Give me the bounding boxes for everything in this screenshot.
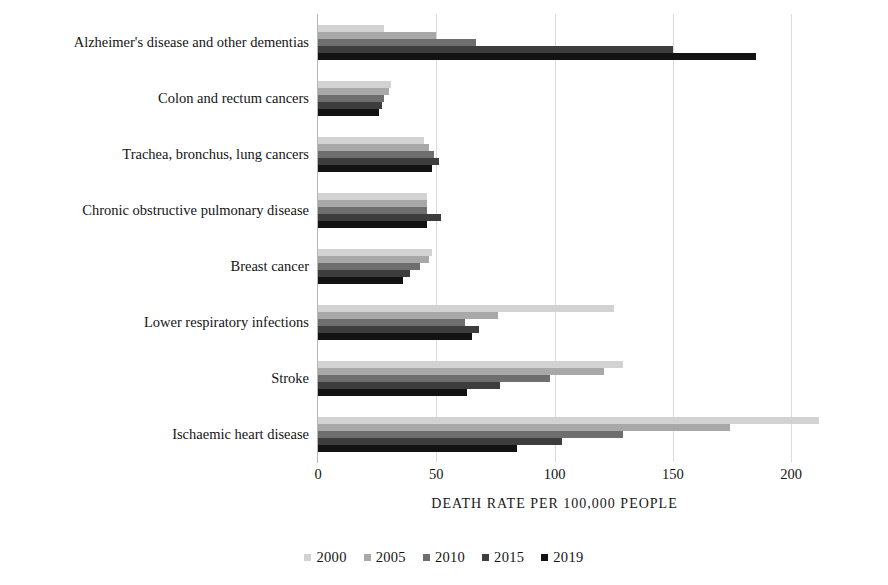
- bar: [318, 53, 756, 60]
- category-label: Trachea, bronchus, lung cancers: [12, 146, 318, 162]
- legend-swatch-icon: [423, 554, 430, 561]
- legend-item[interactable]: 2015: [482, 549, 524, 566]
- bar: [318, 438, 562, 445]
- bar: [318, 389, 467, 396]
- x-axis-title: DEATH RATE PER 100,000 PEOPLE: [318, 496, 791, 512]
- category-label: Stroke: [12, 370, 318, 386]
- bar: [318, 137, 424, 144]
- legend-swatch-icon: [304, 554, 311, 561]
- category-axis-labels: Alzheimer's disease and other dementiasC…: [0, 14, 318, 462]
- category-label: Breast cancer: [12, 258, 318, 274]
- bar: [318, 277, 403, 284]
- value-axis-tick-labels: 050100150200: [0, 466, 888, 488]
- bar: [318, 144, 429, 151]
- bar-group: [318, 193, 791, 228]
- bar: [318, 158, 439, 165]
- bar-group: [318, 81, 791, 116]
- chart-legend: 20002005201020152019: [0, 549, 888, 566]
- bar: [318, 102, 382, 109]
- bar: [318, 32, 436, 39]
- x-tick-label: 50: [429, 466, 444, 483]
- legend-label: 2000: [316, 549, 346, 566]
- legend-swatch-icon: [482, 554, 489, 561]
- x-tick-label: 0: [314, 466, 321, 483]
- bar: [318, 312, 498, 319]
- category-label: Alzheimer's disease and other dementias: [12, 34, 318, 50]
- bar: [318, 375, 550, 382]
- bar-group: [318, 305, 791, 340]
- x-tick-label: 200: [780, 466, 802, 483]
- legend-item[interactable]: 2019: [541, 549, 583, 566]
- legend-label: 2019: [553, 549, 583, 566]
- bar: [318, 214, 441, 221]
- bar: [318, 382, 500, 389]
- legend-item[interactable]: 2010: [423, 549, 465, 566]
- bar: [318, 95, 384, 102]
- bar: [318, 319, 465, 326]
- bar: [318, 263, 420, 270]
- bar: [318, 333, 472, 340]
- bar: [318, 207, 427, 214]
- x-tick-label: 100: [544, 466, 566, 483]
- bar: [318, 25, 384, 32]
- plot-area: [318, 14, 791, 462]
- bar: [318, 46, 673, 53]
- legend-label: 2015: [494, 549, 524, 566]
- category-label: Lower respiratory infections: [12, 314, 318, 330]
- category-label: Chronic obstructive pulmonary disease: [12, 202, 318, 218]
- bar: [318, 193, 427, 200]
- bar-group: [318, 137, 791, 172]
- bar: [318, 256, 429, 263]
- bar: [318, 305, 614, 312]
- bar: [318, 424, 730, 431]
- bar: [318, 417, 819, 424]
- bar: [318, 81, 391, 88]
- bar: [318, 88, 389, 95]
- category-label: Ischaemic heart disease: [12, 426, 318, 442]
- bar-group: [318, 25, 791, 60]
- bar: [318, 39, 476, 46]
- category-label: Colon and rectum cancers: [12, 90, 318, 106]
- bar: [318, 361, 623, 368]
- legend-item[interactable]: 2000: [304, 549, 346, 566]
- bar-group: [318, 249, 791, 284]
- bar: [318, 431, 623, 438]
- bar: [318, 445, 517, 452]
- x-tick-label: 150: [662, 466, 684, 483]
- bar: [318, 221, 427, 228]
- legend-swatch-icon: [541, 554, 548, 561]
- bar: [318, 326, 479, 333]
- legend-item[interactable]: 2005: [364, 549, 406, 566]
- bar: [318, 151, 434, 158]
- legend-label: 2010: [435, 549, 465, 566]
- bar: [318, 249, 432, 256]
- bar: [318, 368, 604, 375]
- legend-label: 2005: [376, 549, 406, 566]
- bar: [318, 270, 410, 277]
- bar: [318, 109, 379, 116]
- bar-group: [318, 361, 791, 396]
- legend-swatch-icon: [364, 554, 371, 561]
- bar-group: [318, 417, 791, 452]
- bar-chart: Alzheimer's disease and other dementiasC…: [0, 0, 888, 585]
- bar: [318, 165, 432, 172]
- gridline-200: [791, 14, 792, 462]
- bar: [318, 200, 427, 207]
